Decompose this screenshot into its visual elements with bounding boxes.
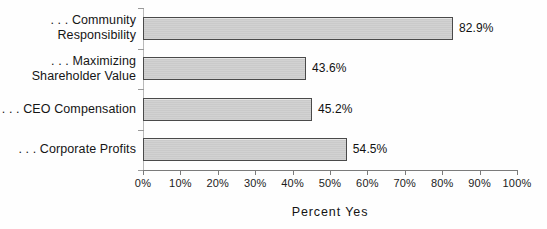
x-axis-tick — [367, 170, 368, 175]
y-axis-tick — [138, 130, 144, 131]
x-axis-tick-label: 80% — [431, 177, 454, 189]
x-axis-tick-label: 90% — [468, 177, 491, 189]
x-axis-tick — [517, 170, 518, 175]
x-axis-tick-label: 20% — [206, 177, 229, 189]
y-axis-tick — [138, 49, 144, 50]
bar-chart: 0%10%20%30%40%50%60%70%80%90%100% . . . … — [0, 0, 547, 229]
bar-value-label: 43.6% — [312, 61, 347, 75]
x-axis-tick — [293, 170, 294, 175]
category-label: . . . CEO Compensation — [0, 102, 136, 117]
x-axis-tick-label: 0% — [135, 177, 151, 189]
y-axis-tick — [138, 8, 144, 9]
x-axis-tick — [255, 170, 256, 175]
category-label-row: . . . Community Responsibility — [0, 13, 137, 43]
category-label: . . . Maximizing Shareholder Value — [0, 54, 136, 84]
bar — [143, 17, 453, 40]
bar-value-label: 54.5% — [353, 142, 388, 156]
x-axis-tick-label: 70% — [393, 177, 416, 189]
category-label-row: . . . Maximizing Shareholder Value — [0, 54, 137, 84]
x-axis-title: Percent Yes — [143, 205, 517, 219]
x-axis-tick — [330, 170, 331, 175]
x-axis-tick-label: 100% — [503, 177, 532, 189]
x-axis-tick — [480, 170, 481, 175]
x-axis-tick — [180, 170, 181, 175]
x-axis-tick — [143, 170, 144, 175]
category-label-row: . . . Corporate Profits — [0, 142, 137, 157]
category-label: . . . Community Responsibility — [0, 13, 136, 43]
x-axis-tick-label: 60% — [356, 177, 379, 189]
y-axis-tick — [138, 89, 144, 90]
bar — [143, 98, 312, 121]
x-axis-tick — [218, 170, 219, 175]
bar — [143, 138, 347, 161]
x-axis-tick-label: 50% — [319, 177, 342, 189]
bar — [143, 57, 306, 80]
bar-value-label: 45.2% — [318, 102, 353, 116]
x-axis-tick — [442, 170, 443, 175]
x-axis-tick-label: 10% — [169, 177, 192, 189]
bar-value-label: 82.9% — [459, 21, 494, 35]
x-axis-tick-label: 40% — [281, 177, 304, 189]
x-axis-tick-label: 30% — [244, 177, 267, 189]
category-label: . . . Corporate Profits — [0, 142, 136, 157]
x-axis-tick — [405, 170, 406, 175]
category-label-row: . . . CEO Compensation — [0, 102, 137, 117]
